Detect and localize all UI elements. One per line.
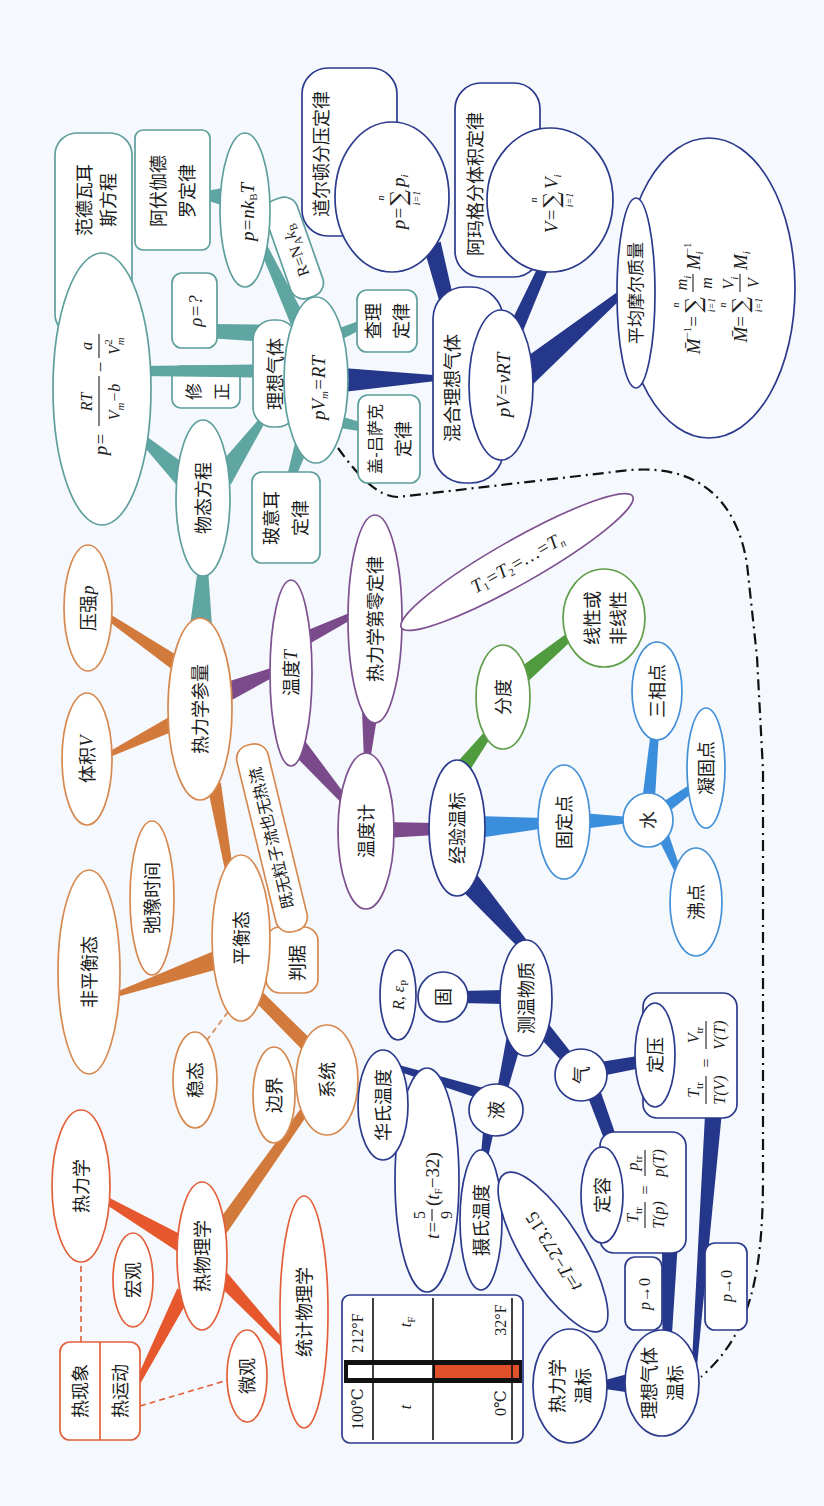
- amagat-lhs: V=: [541, 209, 562, 233]
- molar-1-lower: i=1: [706, 298, 717, 313]
- statistical-physics-label: 统计物理学: [294, 1267, 315, 1357]
- avogadro-line-1: 阿伏伽德: [148, 155, 169, 227]
- fahrenheit-formula-tail: −32): [422, 1152, 444, 1188]
- celsius-variable: t: [397, 1404, 414, 1409]
- water-label: 水: [638, 811, 659, 829]
- fahrenheit-formula-den: 9: [438, 1211, 455, 1219]
- celsius-low-label: 0℃: [492, 1390, 509, 1416]
- cv-num-1-sub: tr: [632, 1207, 644, 1214]
- equilibrium-label: 平衡态: [231, 911, 252, 965]
- constant-pressure-label: 定压: [645, 1037, 666, 1073]
- gas-label: 气: [571, 1066, 592, 1084]
- vdw-num-2: a: [78, 342, 95, 350]
- density-label: ρ=?: [185, 295, 206, 328]
- constant-volume-label: 定容: [592, 1177, 613, 1213]
- cp-num-2-sub: tr: [693, 1026, 705, 1033]
- fahrenheit-high-label: 212°F: [349, 1313, 366, 1352]
- limit-volume-rest: →0: [636, 1278, 653, 1302]
- zeroth-law-label: 热力学第零定律: [365, 556, 386, 682]
- limit-volume-var: p: [636, 1302, 654, 1311]
- ideal-gas-law-lhs: pV: [308, 397, 329, 423]
- avogadro-line-2: 罗定律: [177, 164, 198, 218]
- limit-volume-label: p→0: [636, 1278, 654, 1311]
- parameters-label: 热力学参量: [190, 664, 211, 754]
- cp-eq: =: [698, 1058, 715, 1067]
- molar-2-term-var: M: [730, 253, 751, 271]
- dalton-lower: i=1: [411, 191, 422, 206]
- vdw-den-1-rest: −b: [106, 384, 123, 403]
- temperature-text: 温度: [281, 660, 302, 696]
- vdw-den-2: V2m: [102, 337, 126, 354]
- mixture-label: 混合理想气体: [442, 334, 463, 442]
- vdw-den-2-sup: 2: [102, 339, 114, 345]
- pnkt-sub: B: [247, 193, 259, 200]
- vdw-name-line-1: 范德瓦耳: [74, 164, 95, 236]
- vdw-den-2-sub: m: [114, 337, 126, 345]
- steady-state-label: 稳态: [185, 1062, 206, 1098]
- molar-2-lhs-var: M̄: [730, 326, 751, 344]
- cv-eq: =: [637, 1185, 654, 1194]
- concept-map: 热现象 热运动 热力学 宏观 热物理学 微观 统计物理学 系统 边界 稳态 平衡…: [0, 0, 824, 1506]
- cv-num-2-var: p: [624, 1162, 642, 1171]
- amagat-term-sub: i: [551, 174, 563, 177]
- fahrenheit-formula-num: 5: [411, 1211, 428, 1219]
- root-motion-label: 热运动: [110, 1364, 131, 1418]
- molar-1-term-var: M: [683, 253, 704, 271]
- molar-1-upper: n: [670, 303, 681, 308]
- molar-2-lhs: M̄=: [730, 316, 751, 344]
- dalton-term-var: p: [388, 178, 409, 190]
- molar-1-eq: =: [683, 316, 704, 327]
- node-vdw-equation: [53, 253, 151, 525]
- freezing-point-label: 凝固点: [696, 741, 717, 795]
- criterion-label: 判据: [287, 945, 308, 981]
- volume-label: 体积V: [77, 734, 98, 783]
- root-phenomenon-label: 热现象: [70, 1364, 91, 1418]
- solid-property-text: R, ε: [390, 985, 407, 1011]
- fahrenheit-label: 华氏温度: [373, 1069, 394, 1141]
- limit-pressure-var: p: [718, 1294, 736, 1303]
- ideal-gas-law-formula: pVm=RT: [308, 355, 331, 422]
- thermometer-mercury-column: [435, 1365, 519, 1378]
- molar-1-num-var: m: [673, 279, 690, 291]
- vdw-num-1: RT: [78, 392, 95, 413]
- cp-num-1-sub: tr: [693, 1082, 705, 1089]
- molar-1-den: m: [698, 277, 715, 289]
- limit-pressure-label: p→0: [718, 1270, 736, 1303]
- molar-2-term-sub: i: [740, 251, 752, 254]
- amagat-sum: ∑: [539, 192, 564, 208]
- limit-pressure-rest: →0: [718, 1270, 735, 1294]
- ideal-gas-law-rhs: =RT: [308, 355, 329, 391]
- vdw-name-line-2: 斯方程: [98, 173, 119, 227]
- thermodynamics-label: 热力学: [71, 1159, 92, 1213]
- triple-point-label: 三相点: [647, 664, 668, 718]
- molar-2-lower: i=1: [753, 298, 764, 313]
- microscopic-label: 微观: [237, 1358, 258, 1394]
- node-linearity: [563, 569, 645, 667]
- boyle-line-1: 玻意耳: [261, 491, 282, 545]
- correction-char-1: 修: [184, 383, 204, 400]
- state-equation-label: 物态方程: [193, 462, 214, 534]
- dalton-label: 道尔顿分压定律: [311, 91, 332, 217]
- pressure-text: 压强: [78, 595, 99, 631]
- molar-2-sum: ∑: [728, 297, 753, 313]
- solid-property-sub: P: [398, 980, 410, 986]
- thermodynamic-scale-line-1: 热力学: [547, 1359, 568, 1413]
- pnkt-rhs: T: [237, 181, 258, 193]
- fahrenheit-variable-sub: F: [405, 1317, 417, 1323]
- amagat-label: 阿玛格分体积定律: [465, 112, 486, 256]
- molar-2-upper: n: [717, 303, 728, 308]
- gay-lussac-line-2: 定律: [393, 421, 414, 457]
- dalton-upper: n: [375, 196, 386, 201]
- empirical-scale-label: 经验温标: [447, 792, 468, 864]
- molar-2-num-sub: i: [728, 277, 740, 280]
- node-ideal-gas-scale: [625, 1330, 699, 1436]
- molar-mass-label: 平均摩尔质量: [626, 242, 646, 344]
- linearity-line-2: 非线性: [608, 591, 629, 645]
- mixture-equation: pV=νRT: [493, 351, 514, 419]
- molar-1-num-sub: i: [681, 276, 693, 279]
- vdw-lhs: p=: [90, 433, 111, 457]
- node-thermodynamic-scale: [533, 1329, 607, 1443]
- charles-line-1: 查理: [363, 303, 384, 339]
- dalton-term-sub: i: [398, 174, 410, 177]
- cv-den-1: T(p): [650, 1201, 668, 1229]
